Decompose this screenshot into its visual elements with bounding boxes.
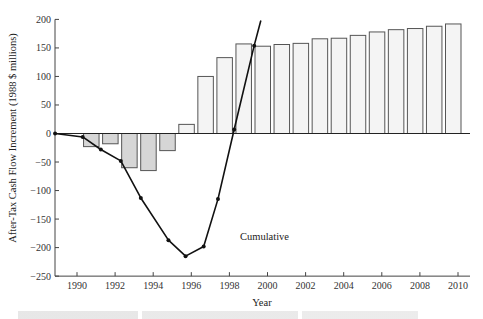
bar-2000	[255, 46, 271, 133]
y-tick-label: −100	[30, 185, 51, 196]
figure-caption-cutoff	[18, 311, 418, 319]
cumulative-point	[99, 147, 103, 151]
cumulative-point	[184, 254, 188, 258]
cumulative-point	[139, 196, 143, 200]
bar-2001	[274, 45, 290, 134]
annual-bars	[84, 24, 461, 171]
bar-1992	[103, 134, 119, 144]
cumulative-polyline	[55, 21, 261, 257]
bar-1996	[179, 124, 195, 133]
x-axis-title: Year	[252, 297, 272, 308]
bar-2008	[407, 29, 423, 134]
bar-1997	[198, 76, 214, 133]
cumulative-point	[252, 44, 256, 48]
cumulative-point	[232, 128, 236, 132]
x-tick-label: 1992	[105, 280, 125, 291]
cash-flow-chart: 200150100500−50−100−150−200−250199019921…	[0, 0, 483, 319]
bar-1993	[122, 134, 137, 168]
cumulative-point	[166, 238, 170, 242]
bar-2005	[350, 35, 366, 133]
bar-1995	[160, 134, 176, 151]
cumulative-point	[81, 135, 85, 139]
bar-1998	[217, 58, 233, 134]
cumulative-label: Cumulative	[240, 231, 289, 242]
x-tick-label: 2010	[448, 280, 468, 291]
y-tick-label: −200	[30, 242, 51, 253]
x-tick-label: 2002	[296, 280, 316, 291]
bar-2003	[312, 39, 328, 134]
bar-2006	[369, 32, 385, 134]
annotations: Cumulative	[240, 231, 289, 242]
x-tick-label: 1990	[67, 280, 87, 291]
y-tick-label: −150	[30, 214, 51, 225]
cumulative-point	[53, 132, 57, 136]
bar-2002	[293, 43, 309, 133]
x-tick-label: 1998	[219, 280, 239, 291]
y-tick-label: −50	[35, 157, 51, 168]
y-tick-label: 100	[36, 71, 51, 82]
bar-2007	[388, 30, 404, 134]
x-tick-label: 2008	[410, 280, 430, 291]
bar-2004	[331, 38, 347, 133]
bar-1994	[141, 134, 157, 171]
cumulative-point	[202, 244, 206, 248]
cumulative-point	[119, 159, 123, 163]
y-tick-label: 150	[36, 42, 51, 53]
x-tick-label: 2004	[334, 280, 354, 291]
cumulative-point	[216, 197, 220, 201]
bar-2009	[426, 26, 442, 133]
y-tick-label: 200	[36, 14, 51, 25]
bar-2010	[446, 24, 462, 134]
y-tick-label: 0	[46, 128, 51, 139]
x-tick-label: 2006	[372, 280, 392, 291]
y-tick-label: 50	[41, 99, 51, 110]
x-tick-label: 2000	[258, 280, 278, 291]
x-tick-label: 1996	[181, 280, 201, 291]
y-tick-label: −250	[30, 271, 51, 282]
y-axis-title: After-Tax Cash Flow Increment (1988 $ mi…	[7, 33, 19, 243]
x-tick-label: 1994	[143, 280, 163, 291]
